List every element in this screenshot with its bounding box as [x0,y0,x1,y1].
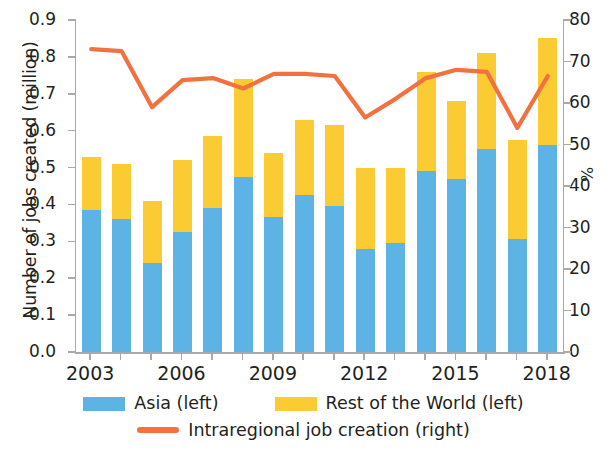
y-axis-left-tick-label: 0.1 [10,306,56,323]
y-axis-left-tick-label: 0.3 [10,232,56,249]
legend-label-asia: Asia (left) [134,395,218,413]
y-axis-right-tick-mark [563,310,571,312]
y-axis-right-tick-mark [563,61,571,63]
x-axis-tick-mark [89,353,91,360]
y-axis-right-tick-label: 40 [569,177,607,194]
chart-legend: Asia (left) Rest of the World (left) Int… [0,395,607,439]
plot-area [75,20,564,352]
x-axis-line [75,352,565,354]
legend-swatch-rest-of-world [275,397,317,411]
x-axis-tick-mark [455,353,457,360]
legend-swatch-intraregional-line [137,427,179,433]
y-axis-left-tick-label: 0.2 [10,269,56,286]
x-axis-tick-mark [242,353,244,360]
y-axis-right-tick-label: 20 [569,260,607,277]
x-axis-tick-mark [516,353,518,360]
x-axis-tick-mark [181,353,183,360]
y-axis-left-tick-label: 0.9 [10,11,56,28]
x-axis-tick-mark [546,353,548,360]
x-axis-tick-mark [485,353,487,360]
x-axis-tick-label-2015: 2015 [415,362,495,384]
x-axis-tick-label-2009: 2009 [233,362,313,384]
x-axis-tick-mark [150,353,152,360]
y-axis-right-tick-mark [563,144,571,146]
y-axis-left-tick-label: 0.4 [10,195,56,212]
legend-item-asia: Asia (left) [83,395,218,413]
x-axis-tick-label-2012: 2012 [324,362,404,384]
legend-item-rest-of-world: Rest of the World (left) [275,395,524,413]
y-axis-right-tick-mark [563,102,571,104]
stacked-bar-line-chart: Number of jobs created (million) % 0.00.… [0,0,607,461]
y-axis-right-tick-mark [563,19,571,21]
legend-swatch-asia [83,397,125,411]
y-axis-right-tick-label: 60 [569,94,607,111]
y-axis-left-tick-label: 0.7 [10,85,56,102]
y-axis-right-tick-mark [563,268,571,270]
x-axis-tick-mark [424,353,426,360]
y-axis-right-tick-label: 50 [569,136,607,153]
x-axis-tick-label-2018: 2018 [507,362,587,384]
y-axis-right-tick-label: 70 [569,53,607,70]
y-axis-left-tick-label: 0.8 [10,48,56,65]
y-axis-right-tick-label: 0 [569,343,607,360]
legend-label-intraregional: Intraregional job creation (right) [188,422,470,440]
y-axis-right-tick-label: 10 [569,302,607,319]
x-axis-tick-mark [302,353,304,360]
x-axis-tick-mark [333,353,335,360]
y-axis-left-tick-label: 0.6 [10,122,56,139]
x-axis-tick-mark [120,353,122,360]
x-axis-tick-mark [363,353,365,360]
x-axis-tick-label-2003: 2003 [50,362,130,384]
y-axis-right-tick-mark [563,227,571,229]
x-axis-tick-mark [394,353,396,360]
intraregional-line-path [91,49,548,128]
intraregional-line-series [76,20,563,352]
x-axis-tick-mark [211,353,213,360]
y-axis-right-tick-mark [563,185,571,187]
y-axis-left-tick-label: 0.5 [10,159,56,176]
legend-label-rest-of-world: Rest of the World (left) [326,395,524,413]
y-axis-right-tick-label: 30 [569,219,607,236]
y-axis-right-tick-label: 80 [569,11,607,28]
legend-item-intraregional: Intraregional job creation (right) [137,422,470,440]
y-axis-left-tick-label: 0.0 [10,343,56,360]
x-axis-tick-label-2006: 2006 [142,362,222,384]
x-axis-tick-mark [272,353,274,360]
